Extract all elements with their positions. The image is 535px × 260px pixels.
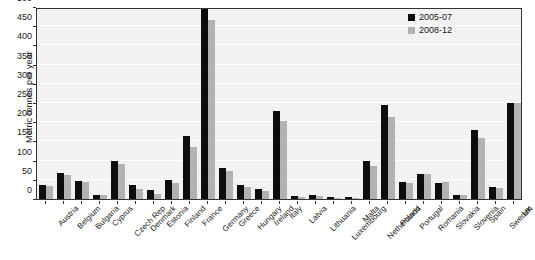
bar — [147, 190, 154, 199]
x-axis-tick-mark — [135, 201, 136, 204]
bar — [363, 161, 370, 199]
y-axis-tick-label: 250 — [0, 89, 36, 99]
y-axis-tick-mark — [33, 180, 36, 181]
y-axis-tick-mark — [33, 65, 36, 66]
bar-group — [181, 9, 199, 199]
bar — [388, 117, 395, 199]
bar — [298, 197, 305, 199]
bar-group — [253, 9, 271, 199]
x-axis-tick-mark — [153, 201, 154, 204]
bar-group — [397, 9, 415, 199]
bar-group — [37, 9, 55, 199]
bars-layer — [37, 9, 521, 199]
y-axis-tick-label: 400 — [0, 31, 36, 41]
bar — [165, 180, 172, 199]
bar — [64, 175, 71, 199]
bar — [471, 130, 478, 200]
y-axis-tick-mark — [33, 26, 36, 27]
x-axis-tick-mark — [495, 201, 496, 204]
bar-group — [217, 9, 235, 199]
bar — [100, 195, 107, 199]
x-axis-tick-mark — [297, 201, 298, 204]
y-axis-tick-label: 350 — [0, 51, 36, 61]
bar-group — [487, 9, 505, 199]
x-axis-tick-mark — [63, 201, 64, 204]
bar — [39, 185, 46, 199]
bar — [514, 103, 521, 199]
y-axis-tick-label: 50 — [0, 166, 36, 176]
bar — [75, 181, 82, 199]
bar-group — [289, 9, 307, 199]
bar-group — [163, 9, 181, 199]
bar-group — [433, 9, 451, 199]
bar — [280, 121, 287, 199]
bar — [309, 195, 316, 199]
legend-item: 2005-07 — [408, 12, 452, 22]
bar — [345, 197, 352, 199]
bar — [111, 161, 118, 199]
bar — [226, 171, 233, 199]
x-axis-tick-mark — [117, 201, 118, 204]
bar — [154, 194, 161, 199]
x-axis-tick-label: Lithuania — [329, 204, 358, 233]
bar — [327, 197, 334, 199]
bar-group — [307, 9, 325, 199]
plot-area — [36, 8, 522, 200]
y-axis-tick-label: 500 — [0, 0, 36, 3]
bar — [417, 174, 424, 199]
bar-group — [73, 9, 91, 199]
bar — [262, 191, 269, 199]
bar-group — [505, 9, 522, 199]
legend-label: 2005-07 — [419, 12, 452, 22]
bar-group — [379, 9, 397, 199]
bar-group — [325, 9, 343, 199]
y-axis-tick-mark — [33, 7, 36, 8]
bar — [190, 147, 197, 199]
x-axis-tick-mark — [459, 201, 460, 204]
bar — [291, 196, 298, 199]
x-axis-tick-mark — [99, 201, 100, 204]
bar — [507, 103, 514, 199]
bar-group — [109, 9, 127, 199]
x-axis-tick-mark — [207, 201, 208, 204]
x-axis-tick-mark — [387, 201, 388, 204]
x-axis-tick-mark — [171, 201, 172, 204]
chart-legend: 2005-072008-12 — [408, 12, 452, 35]
y-axis-tick-label: 450 — [0, 12, 36, 22]
y-axis-tick-mark — [33, 161, 36, 162]
bar — [93, 195, 100, 199]
bar — [237, 185, 244, 199]
legend-item: 2008-12 — [408, 25, 452, 35]
y-axis-tick-mark — [33, 45, 36, 46]
bar-group — [235, 9, 253, 199]
x-axis-tick-mark — [315, 201, 316, 204]
x-axis-tick-label: Latvia — [307, 204, 328, 225]
x-axis-tick-mark — [243, 201, 244, 204]
bar — [316, 196, 323, 199]
bar — [453, 195, 460, 199]
bar-group — [469, 9, 487, 199]
bar — [46, 186, 53, 199]
bar — [334, 198, 341, 199]
y-axis-tick-mark — [33, 103, 36, 104]
x-axis-tick-mark — [405, 201, 406, 204]
x-axis-tick-mark — [225, 201, 226, 204]
y-axis-tick-mark — [33, 199, 36, 200]
bar-group — [361, 9, 379, 199]
bar — [82, 182, 89, 199]
y-axis-tick-label: 150 — [0, 127, 36, 137]
x-axis-tick-mark — [441, 201, 442, 204]
bar — [129, 185, 136, 199]
y-axis-tick-label: 0 — [0, 185, 36, 195]
x-axis-tick-mark — [477, 201, 478, 204]
bar — [424, 174, 431, 199]
x-axis-tick-mark — [333, 201, 334, 204]
y-axis-tick-label: 200 — [0, 108, 36, 118]
bar-group — [451, 9, 469, 199]
bar — [136, 189, 143, 199]
bar-group — [145, 9, 163, 199]
y-axis-tick-mark — [33, 84, 36, 85]
bar — [183, 136, 190, 199]
legend-swatch — [408, 27, 415, 34]
